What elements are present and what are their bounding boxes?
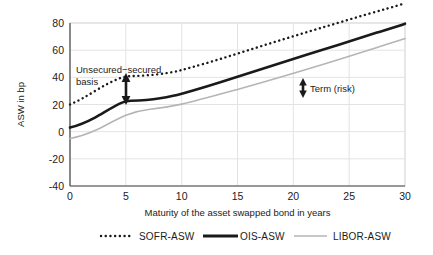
chart-figure: 80 60 40 20 0 -20 -40 0 5 10 15 20 25 30… [0,0,433,255]
x-axis-title: Maturity of the asset swapped bond in ye… [145,207,331,218]
x-tick-label: 5 [123,190,129,202]
y-tick-label: 20 [52,99,64,111]
x-tick-label: 0 [67,190,73,202]
y-tick-label: 40 [52,71,64,83]
y-axis-title: ASW in bp [15,82,26,127]
chart-legend: SOFR-ASW OIS-ASW LIBOR-ASW [101,231,391,242]
x-tick-label: 30 [399,190,411,202]
asw-line-chart: 80 60 40 20 0 -20 -40 0 5 10 15 20 25 30… [0,0,433,255]
y-tick-label: 0 [58,126,64,138]
x-tick-label: 25 [343,190,355,202]
y-tick-label: -20 [49,153,64,165]
annotation-unsecured-secured-basis-line1: Unsecured−secured [76,64,161,75]
x-tick-label: 15 [232,190,244,202]
y-tick-label: 80 [52,17,64,29]
y-tick-label: 60 [52,44,64,56]
y-tick-label: -40 [49,180,64,192]
annotation-term-risk-label: Term (risk) [310,83,355,94]
legend-label-ois-asw: OIS-ASW [240,231,285,242]
x-tick-label: 20 [287,190,299,202]
legend-label-libor-asw: LIBOR-ASW [333,231,391,242]
x-tick-label: 10 [176,190,188,202]
annotation-unsecured-secured-basis-line2: basis [76,76,98,87]
legend-label-sofr-asw: SOFR-ASW [139,231,195,242]
